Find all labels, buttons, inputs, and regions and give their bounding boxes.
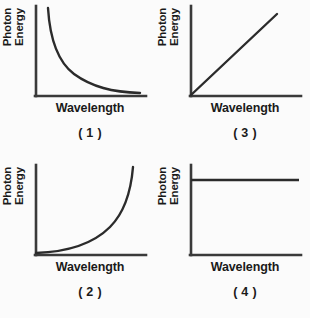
choice-caption-1: ( 1 ): [34, 126, 146, 140]
inverse-decay-curve: [48, 8, 140, 93]
y-axis-label-line2: Energy: [14, 167, 26, 205]
y-axis-label-3: Photon Energy: [154, 0, 184, 64]
graph-plot-2: [34, 165, 146, 261]
choice-caption-4: ( 4 ): [189, 285, 301, 299]
multiple-choice-graph-figure: Photon Energy Wavelength ( 1 ) Photon En…: [0, 0, 310, 318]
x-axis-label-2: Wavelength: [34, 260, 146, 274]
answer-choice-4[interactable]: Photon Energy Wavelength ( 4 ): [155, 159, 310, 318]
x-axis-label-3: Wavelength: [189, 101, 301, 115]
y-axis-label-4: Photon Energy: [154, 149, 184, 223]
x-axis-label-1: Wavelength: [34, 101, 146, 115]
graph-plot-4: [189, 165, 301, 261]
y-axis-label-line2: Energy: [169, 167, 181, 205]
y-axis-label-1: Photon Energy: [0, 0, 29, 64]
choice-caption-2: ( 2 ): [34, 285, 146, 299]
y-axis-label-line2: Energy: [169, 8, 181, 46]
y-axis-label-2: Photon Energy: [0, 149, 29, 223]
graph-plot-1: [34, 6, 146, 102]
answer-choice-2[interactable]: Photon Energy Wavelength ( 2 ): [0, 159, 155, 318]
choice-caption-3: ( 3 ): [189, 126, 301, 140]
answer-choice-3[interactable]: Photon Energy Wavelength ( 3 ): [155, 0, 310, 159]
linear-increase-line: [191, 14, 277, 95]
graph-plot-3: [189, 6, 301, 102]
x-axis-label-4: Wavelength: [189, 260, 301, 274]
answer-choice-1[interactable]: Photon Energy Wavelength ( 1 ): [0, 0, 155, 159]
y-axis-label-line2: Energy: [14, 8, 26, 46]
exponential-growth-curve: [36, 167, 133, 253]
